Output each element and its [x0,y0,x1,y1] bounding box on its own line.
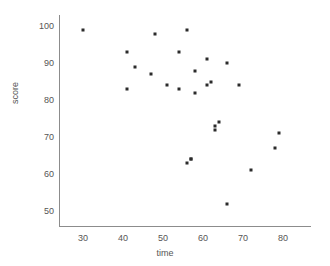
x-tick-label: 30 [78,233,88,243]
data-point [206,84,209,87]
data-point [194,91,197,94]
x-tick-label: 50 [158,233,168,243]
data-point [186,28,189,31]
plot-area [59,15,311,226]
y-tick-label: 80 [22,95,54,105]
data-point [166,84,169,87]
data-point [150,73,153,76]
data-point [186,162,189,165]
data-point [274,147,277,150]
data-point [126,88,129,91]
x-tick-label: 60 [198,233,208,243]
data-point [238,84,241,87]
y-tick-label: 90 [22,58,54,68]
data-point [178,88,181,91]
data-point [154,32,157,35]
data-point [226,202,229,205]
data-point [194,69,197,72]
scatter-plot-figure: 5060708090100 304050607080 score time [0,0,330,266]
data-point [226,62,229,65]
data-point [218,121,221,124]
y-tick-label: 50 [22,206,54,216]
data-point [82,28,85,31]
data-point [190,158,193,161]
data-point [278,132,281,135]
y-tick-label: 60 [22,169,54,179]
data-point [134,65,137,68]
x-axis-title: time [0,248,330,258]
y-tick-label: 100 [22,21,54,31]
data-point [250,169,253,172]
x-tick-label: 80 [278,233,288,243]
data-point [214,125,217,128]
data-point [178,51,181,54]
y-axis-title: score [10,82,20,104]
x-axis-line [59,226,311,227]
data-point [126,51,129,54]
data-point [214,128,217,131]
data-point [206,58,209,61]
data-point [210,80,213,83]
y-tick-label: 70 [22,132,54,142]
x-tick-label: 40 [118,233,128,243]
x-tick-label: 70 [238,233,248,243]
